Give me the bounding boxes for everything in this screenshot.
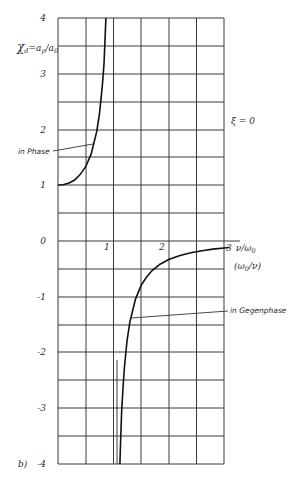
y-tick-m2: -2: [37, 347, 46, 357]
in-gegenphase-leader: [131, 311, 228, 318]
in-gegenphase-curve: [120, 248, 230, 465]
y-tick-m1: -1: [37, 292, 46, 302]
y-tick-1: 1: [40, 180, 46, 190]
y-axis-title: χd=ap/a0: [16, 40, 58, 55]
x-axis-alt-title: (ω0/ν): [234, 261, 262, 273]
y-tick-3: 3: [40, 69, 46, 79]
grid: [58, 18, 240, 464]
panel-label: b): [18, 459, 28, 469]
y-tick-4: 4: [39, 13, 46, 23]
x-tick-1: 1: [104, 242, 110, 252]
y-tick-m4: -4: [37, 459, 46, 469]
in-phase-leader: [53, 144, 93, 151]
in-phase-label: in Phase: [18, 147, 50, 156]
y-tick-0: 0: [40, 236, 46, 246]
y-tick-2: 2: [39, 125, 46, 135]
y-tick-m3: -3: [37, 403, 46, 413]
response-curve-chart: 4 3 2 1 0 -1 -2 -3 -4 χd=ap/a0 1 2 3ν/ω0…: [0, 0, 294, 482]
x-tick-2: 2: [158, 242, 165, 252]
in-gegenphase-label: in Gegenphase: [230, 306, 287, 315]
x-axis-title: 3ν/ω0: [226, 243, 256, 255]
y-tick-labels: 4 3 2 1 0 -1 -2 -3 -4: [37, 13, 46, 469]
xi-annotation: ξ = 0: [231, 116, 255, 126]
